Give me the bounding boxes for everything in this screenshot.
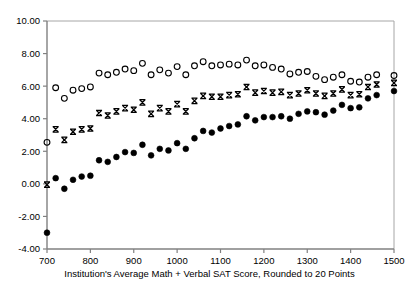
data-point-filled-circle (304, 108, 310, 114)
data-point-filled-circle (105, 159, 111, 165)
scatter-chart: -4.00-2.000.002.004.006.008.0010.00 7008… (0, 0, 419, 294)
data-point-open-circle (365, 74, 371, 80)
data-point-x-marker (235, 92, 241, 97)
data-point-filled-circle (218, 126, 224, 132)
data-point-x-marker (244, 84, 250, 89)
data-point-open-circle (105, 72, 111, 78)
y-tick-label: 10.00 (16, 15, 40, 26)
data-point-filled-circle (200, 128, 206, 134)
data-point-filled-circle (61, 186, 67, 192)
data-point-open-circle (261, 62, 267, 68)
data-point-filled-circle (166, 148, 172, 154)
data-point-open-circle (122, 66, 128, 72)
data-point-filled-circle (148, 152, 154, 158)
x-tick-label: 1200 (253, 255, 274, 266)
data-point-x-marker (287, 92, 293, 97)
data-point-filled-circle (53, 175, 59, 181)
data-point-open-circle (304, 69, 310, 75)
data-point-x-marker (70, 129, 76, 134)
data-point-open-circle (356, 79, 362, 85)
data-point-open-circle (287, 71, 293, 77)
data-point-filled-circle (96, 157, 102, 163)
data-point-open-circle (235, 62, 241, 68)
data-point-open-circle (296, 69, 302, 75)
data-point-x-marker (374, 82, 380, 87)
plot-frame (47, 21, 394, 249)
data-point-filled-circle (192, 135, 198, 141)
data-point-open-circle (53, 85, 59, 91)
data-point-filled-circle (296, 111, 302, 117)
data-point-open-circle (313, 73, 319, 79)
data-point-x-marker (261, 88, 267, 93)
data-point-filled-circle (252, 117, 258, 123)
data-point-open-circle (322, 77, 328, 83)
open-circle-series (44, 57, 397, 145)
data-point-open-circle (79, 86, 85, 92)
data-point-x-marker (191, 98, 197, 103)
data-point-x-marker (339, 87, 345, 92)
y-axis-ticks: -4.00-2.000.002.004.006.008.0010.00 (16, 15, 47, 254)
x-axis-ticks: 700800900100011001200130014001500 (39, 249, 405, 266)
data-point-x-marker (105, 113, 111, 118)
data-point-filled-circle (348, 105, 354, 111)
plot-area: -4.00-2.000.002.004.006.008.0010.00 7008… (0, 0, 419, 294)
data-point-x-marker (218, 94, 224, 99)
data-point-open-circle (61, 95, 67, 101)
data-point-x-marker (270, 90, 276, 95)
data-point-filled-circle (339, 102, 345, 108)
data-point-x-marker (296, 91, 302, 96)
data-point-x-marker (61, 137, 67, 142)
data-point-x-marker (139, 100, 145, 105)
data-point-filled-circle (226, 123, 232, 129)
data-point-x-marker (157, 105, 163, 110)
data-point-open-circle (192, 63, 198, 69)
data-point-x-marker (313, 91, 319, 96)
data-point-filled-circle (322, 112, 328, 118)
data-point-open-circle (374, 72, 380, 78)
data-point-x-marker (174, 101, 180, 106)
x-tick-label: 1300 (297, 255, 318, 266)
y-tick-label: 0.00 (22, 178, 41, 189)
data-point-open-circle (200, 59, 206, 65)
data-point-filled-circle (365, 95, 371, 101)
x-tick-label: 1100 (210, 255, 230, 266)
y-tick-label: -2.00 (18, 211, 40, 222)
data-point-open-circle (70, 87, 76, 93)
data-point-open-circle (148, 72, 154, 78)
data-point-x-marker (365, 84, 371, 89)
x-axis-title: Institution's Average Math + Verbal SAT … (0, 268, 419, 279)
y-tick-label: 8.00 (22, 48, 41, 59)
data-point-x-marker (165, 109, 171, 114)
x-tick-label: 1000 (167, 255, 188, 266)
data-point-x-marker (200, 93, 206, 98)
data-point-open-circle (140, 60, 146, 66)
data-point-x-marker (348, 92, 354, 97)
data-point-open-circle (96, 70, 102, 76)
data-point-filled-circle (270, 114, 276, 120)
data-point-open-circle (348, 78, 354, 84)
data-point-open-circle (209, 63, 215, 69)
data-point-x-marker (252, 90, 258, 95)
data-point-filled-circle (391, 88, 397, 94)
axis-lines (47, 21, 394, 249)
data-point-x-marker (87, 126, 93, 131)
data-point-filled-circle (157, 146, 163, 152)
data-point-filled-circle (183, 146, 189, 152)
y-tick-label: -4.00 (18, 243, 40, 254)
data-point-open-circle (157, 67, 163, 73)
data-point-open-circle (131, 68, 137, 74)
data-point-open-circle (339, 72, 345, 78)
data-point-open-circle (87, 84, 93, 90)
data-point-open-circle (270, 65, 276, 71)
data-point-x-marker (183, 109, 189, 114)
data-point-x-marker (226, 92, 232, 97)
data-point-open-circle (278, 66, 284, 72)
data-point-x-marker (356, 92, 362, 97)
data-point-x-marker (304, 88, 310, 93)
data-point-open-circle (183, 72, 189, 78)
data-point-filled-circle (209, 130, 215, 136)
data-point-filled-circle (70, 177, 76, 183)
data-point-open-circle (226, 61, 232, 67)
y-tick-label: 4.00 (22, 113, 41, 124)
data-point-x-marker (148, 111, 154, 116)
